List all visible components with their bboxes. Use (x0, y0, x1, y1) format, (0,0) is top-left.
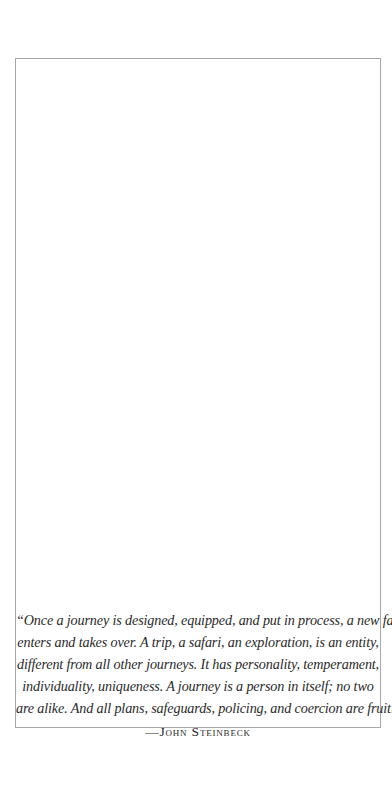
quote-block: “Once a journey is designed, equipped, a… (16, 609, 380, 743)
quote-line-5: are alike. And all plans, safeguards, po… (16, 697, 380, 719)
quote-attribution: —John Steinbeck (16, 721, 380, 743)
quote-box: “Once a journey is designed, equipped, a… (15, 58, 381, 728)
quote-line-2: enters and takes over. A trip, a safari,… (16, 631, 380, 653)
quote-line-4: individuality, uniqueness. A journey is … (16, 675, 380, 697)
quote-line-1: “Once a journey is designed, equipped, a… (16, 609, 380, 631)
quote-line-3: different from all other journeys. It ha… (16, 653, 380, 675)
